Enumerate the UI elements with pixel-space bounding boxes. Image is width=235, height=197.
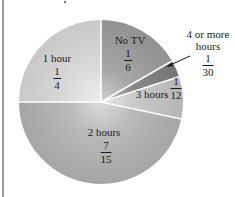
fraction-numerator: 1: [53, 66, 61, 78]
fraction-numerator: 1: [124, 48, 132, 60]
fraction-numerator: 1: [204, 53, 212, 65]
fraction-no-tv: 1 6: [124, 48, 132, 73]
slice-label-four-plus-line2: hours: [196, 40, 220, 52]
fraction-denominator: 15: [101, 153, 112, 165]
fraction-four-plus: 1 30: [203, 53, 214, 78]
fraction-denominator: 6: [125, 61, 131, 73]
slice-label-three-hours: 3 hours: [136, 88, 169, 100]
fraction-denominator: 4: [54, 79, 60, 91]
slice-label-one-hour: 1 hour: [43, 52, 71, 64]
fraction-denominator: 12: [171, 89, 182, 101]
slice-label-four-plus-line1: 4 or more: [187, 28, 230, 40]
slice-label-two-hours: 2 hours: [88, 126, 121, 138]
fraction-numerator: 7: [102, 140, 110, 152]
fraction-numerator: 1: [172, 76, 180, 88]
fraction-two-hours: 7 15: [101, 140, 112, 165]
slice-label-no-tv: No TV: [115, 34, 146, 46]
fraction-denominator: 30: [203, 66, 214, 78]
fraction-one-hour: 1 4: [53, 66, 61, 91]
fraction-three-hours: 1 12: [171, 76, 182, 101]
